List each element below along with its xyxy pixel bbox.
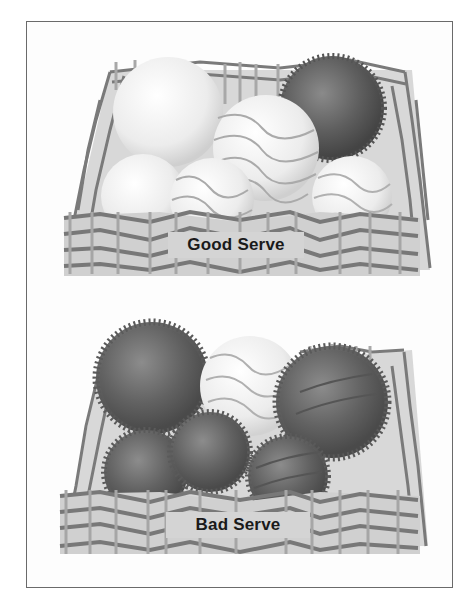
ball-light-large (113, 57, 223, 167)
bad-serve-panel: Bad Serve (0, 296, 468, 594)
ball-dark-spiky-center (170, 412, 250, 492)
bad-serve-basket-illustration (0, 296, 468, 594)
good-serve-label: Good Serve (168, 232, 304, 258)
good-serve-panel: Good Serve (0, 0, 468, 300)
bad-serve-label: Bad Serve (166, 512, 310, 538)
